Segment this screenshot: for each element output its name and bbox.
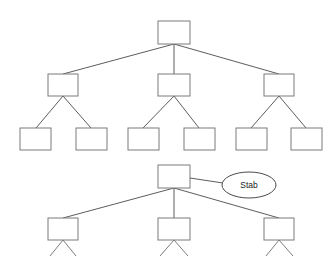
annotation-connector-line (190, 178, 223, 183)
partial-edge-right-branch-leaf-5 (266, 240, 279, 256)
edge-root-to-left-branch (63, 188, 174, 218)
tree-node[interactable] (158, 21, 190, 44)
tree-node[interactable] (236, 128, 267, 150)
tree-node[interactable] (76, 128, 107, 150)
partial-edge-left-branch-leaf-1 (50, 240, 63, 256)
stab-annotation[interactable]: Stab (190, 172, 276, 198)
edge-middle-branch-to-leaf-4 (174, 96, 199, 128)
tree-node[interactable] (128, 128, 159, 150)
partial-edge-middle-branch-leaf-3 (160, 240, 174, 256)
edge-left-branch-to-leaf-2 (63, 96, 91, 128)
tree-node[interactable] (184, 128, 215, 150)
edge-middle-branch-to-leaf-3 (143, 96, 174, 128)
tree-node[interactable] (20, 128, 51, 150)
edge-root-to-left-branch (63, 44, 174, 74)
partial-edge-middle-branch-leaf-4 (174, 240, 188, 256)
partial-edge-left-branch-leaf-2 (63, 240, 76, 256)
upper-tree-nodes (20, 21, 322, 150)
partial-edge-right-branch-leaf-6 (279, 240, 293, 256)
edge-root-to-right-branch (174, 44, 279, 74)
edge-right-branch-to-leaf-5 (251, 96, 279, 128)
diagram-canvas: Stab (0, 0, 336, 256)
tree-node[interactable] (48, 74, 78, 96)
annotation-label: Stab (240, 180, 258, 190)
tree-node[interactable] (158, 165, 190, 188)
tree-diagram-svg: Stab (0, 0, 336, 256)
tree-node[interactable] (264, 74, 294, 96)
tree-node[interactable] (158, 74, 190, 96)
edge-left-branch-to-leaf-1 (36, 96, 63, 128)
tree-node[interactable] (291, 128, 322, 150)
upper-tree (20, 21, 322, 150)
edge-right-branch-to-leaf-6 (279, 96, 306, 128)
tree-node[interactable] (264, 218, 294, 240)
tree-node[interactable] (158, 218, 190, 240)
tree-node[interactable] (48, 218, 78, 240)
